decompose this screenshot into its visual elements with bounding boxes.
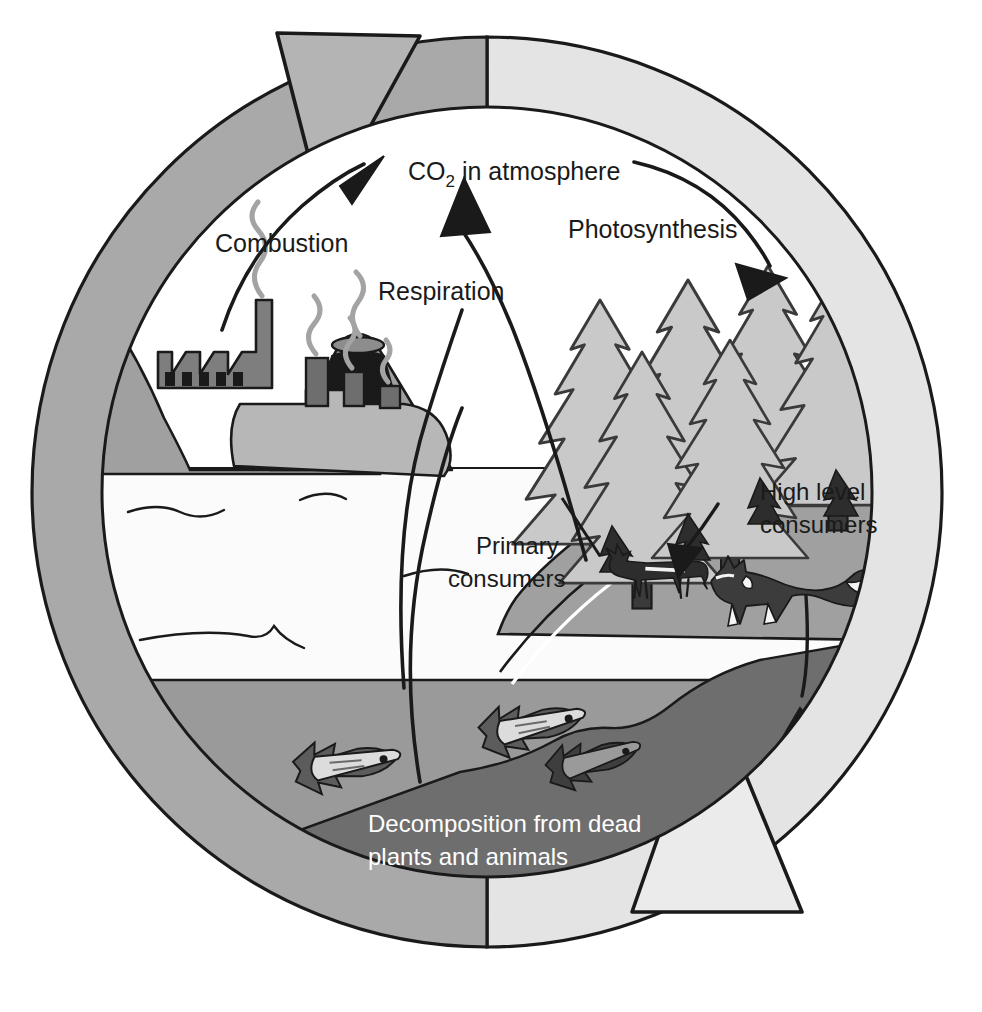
ship-funnel-1 [306,358,328,406]
decomposition-label-line1: Decomposition from dead [368,810,641,837]
combustion-label: Combustion [215,229,348,257]
high-level-consumers-label-line2: consumers [760,511,877,538]
photosynthesis-label: Photosynthesis [568,215,738,243]
high-level-consumers-label-line1: High level [760,478,865,505]
carbon-cycle-diagram: CO2 in atmosphere Combustion Respiration… [0,0,982,1012]
ship-funnel-2 [344,372,364,406]
primary-consumers-label-line1: Primary [476,532,559,559]
primary-consumers-label-line2: consumers [448,565,565,592]
volcano-crater [332,337,384,353]
decomposition-label-line2: plants and animals [368,843,568,870]
ship-funnel-3 [380,386,400,408]
diagram-canvas: CO2 in atmosphere Combustion Respiration… [0,0,982,1012]
respiration-label: Respiration [378,277,504,305]
